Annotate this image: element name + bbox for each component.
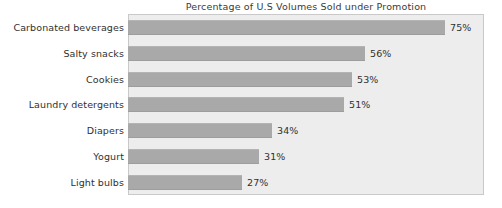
category-label: Diapers	[0, 123, 124, 138]
bar-row: Salty snacks56%	[0, 46, 502, 61]
bar-track	[128, 46, 365, 61]
bar-track	[128, 72, 352, 87]
category-label: Light bulbs	[0, 175, 124, 190]
category-label: Carbonated beverages	[0, 20, 124, 35]
bar-row: Yogurt31%	[0, 149, 502, 164]
bar-value-label: 56%	[370, 46, 391, 61]
bar-value-label: 51%	[349, 97, 370, 112]
bar-value-label: 53%	[357, 72, 378, 87]
bar-row: Diapers34%	[0, 123, 502, 138]
category-label: Laundry detergents	[0, 97, 124, 112]
bar-fill[interactable]	[128, 72, 352, 87]
category-label: Salty snacks	[0, 46, 124, 61]
bar-track	[128, 20, 445, 35]
bar-row: Light bulbs27%	[0, 175, 502, 190]
bar-track	[128, 175, 242, 190]
bar-fill[interactable]	[128, 20, 445, 35]
bar-fill[interactable]	[128, 123, 272, 138]
category-label: Yogurt	[0, 149, 124, 164]
chart-title: Percentage of U.S Volumes Sold under Pro…	[128, 1, 484, 12]
bar-fill[interactable]	[128, 175, 242, 190]
bar-track	[128, 97, 344, 112]
bar-value-label: 75%	[450, 20, 471, 35]
bar-track	[128, 149, 259, 164]
bar-value-label: 34%	[277, 123, 298, 138]
bar-chart-figure: Percentage of U.S Volumes Sold under Pro…	[0, 0, 502, 208]
category-label: Cookies	[0, 72, 124, 87]
bar-fill[interactable]	[128, 97, 344, 112]
bar-value-label: 31%	[264, 149, 285, 164]
bar-row: Cookies53%	[0, 72, 502, 87]
bar-row: Laundry detergents51%	[0, 97, 502, 112]
bar-track	[128, 123, 272, 138]
bar-value-label: 27%	[247, 175, 268, 190]
bar-fill[interactable]	[128, 46, 365, 61]
bar-row: Carbonated beverages75%	[0, 20, 502, 35]
bar-fill[interactable]	[128, 149, 259, 164]
